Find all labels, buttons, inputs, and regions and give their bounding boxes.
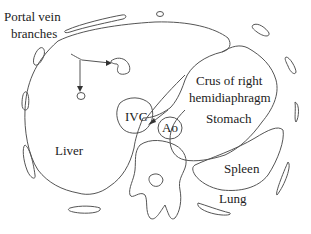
label-portal-vein: Portal vein: [4, 10, 61, 24]
vertebra-canal: [149, 174, 163, 186]
label-crus: Crus of right: [196, 74, 262, 88]
portal-vein-small: [77, 93, 85, 100]
rib-right-lower: [295, 102, 299, 122]
vertebra-outline: [130, 140, 187, 218]
spleen-outline: [193, 128, 284, 190]
rib-right-middle: [285, 57, 296, 74]
label-hemidiaphragm: hemidiaphragm: [189, 91, 271, 105]
arrowhead-down-icon: [77, 86, 83, 92]
label-stomach: Stomach: [206, 112, 252, 126]
rib-right-upper: [252, 24, 269, 36]
small-vessel-top: [157, 12, 164, 17]
label-portal-vein-branches: branches: [11, 27, 57, 41]
label-ao: Ao: [162, 121, 178, 135]
pointer-line-portal: [71, 54, 110, 63]
anatomy-diagram: Portal vein branches Crus of right hemid…: [0, 0, 311, 234]
label-liver: Liver: [55, 144, 83, 158]
label-lung: Lung: [219, 192, 246, 206]
label-ivc: IVC: [125, 110, 147, 124]
rib-top-left: [65, 15, 126, 33]
rib-right-spleen: [277, 162, 290, 195]
rib-under-liver: [68, 206, 100, 213]
portal-vein-branch: [111, 58, 130, 74]
label-spleen: Spleen: [224, 162, 259, 176]
crus-line: [145, 75, 185, 120]
